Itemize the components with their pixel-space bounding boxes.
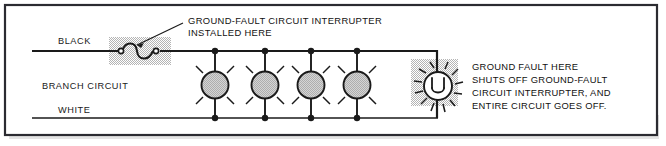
note-line-1: GROUND FAULT HERE	[472, 61, 578, 72]
lamp-1-globe	[202, 72, 229, 99]
branch-circuit-label: BRANCH CIRCUIT	[42, 81, 128, 91]
lamp-4-neutral-junction	[354, 115, 360, 121]
note-line-4: ENTIRE CIRCUIT GOES OFF.	[472, 100, 607, 111]
gfci-wiring-diagram: BLACK BRANCH CIRCUIT WHITE GROUND-FAULT …	[0, 0, 666, 146]
lamp-4-globe	[344, 72, 371, 99]
white-wire-label: WHITE	[58, 105, 90, 115]
fault-burst-globe	[424, 72, 452, 100]
lamp-2-hot-junction	[262, 48, 268, 54]
callout-line-1: GROUND-FAULT CIRCUIT INTERRUPTER	[188, 15, 382, 26]
note-line-2: SHUTS OFF GROUND-FAULT	[472, 74, 608, 85]
gfci-terminal-left	[118, 48, 123, 53]
black-wire-label: BLACK	[58, 36, 91, 46]
note-line-3: CIRCUIT INTERRUPTER, AND	[472, 87, 611, 98]
diagram-canvas: BLACK BRANCH CIRCUIT WHITE GROUND-FAULT …	[0, 0, 666, 146]
lamp-2-neutral-junction	[262, 115, 268, 121]
lamp-3-hot-junction	[308, 48, 314, 54]
lamp-3-neutral-junction	[308, 115, 314, 121]
lamp-3-globe	[298, 72, 325, 99]
lamp-2-globe	[252, 72, 279, 99]
lamp-1-hot-junction	[212, 48, 218, 54]
lamp-4-hot-junction	[354, 48, 360, 54]
callout-line-2: INSTALLED HERE	[188, 27, 272, 38]
lamp-1-neutral-junction	[212, 115, 218, 121]
gfci-terminal-right	[153, 48, 158, 53]
